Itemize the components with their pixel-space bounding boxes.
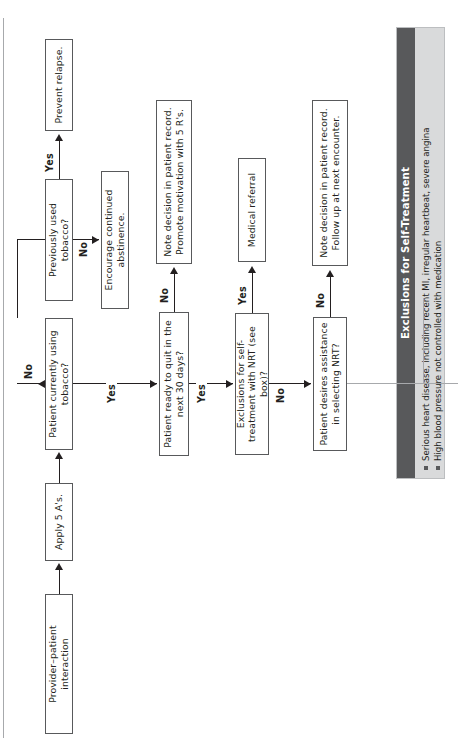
- edge-exclusions-yes: [252, 271, 253, 313]
- node-q-patient-currently-using-tobacco: Patient currently using tobacco?: [45, 318, 73, 450]
- arrowhead-previous-yes: [55, 134, 63, 141]
- edge-start-to-apply5a: [59, 568, 60, 594]
- page-continuation-rule: [423, 298, 424, 384]
- arrowhead-previous-no: [92, 236, 99, 244]
- arrowhead-exclusions-yes: [248, 266, 256, 273]
- edge-label-previous-no: No: [78, 241, 89, 258]
- exclusions-callout-title: Exclusions for Self-Treatment: [397, 28, 415, 478]
- edge-previous-yes-line: [59, 139, 60, 179]
- edge-label-desires-no: No: [315, 292, 326, 309]
- node-provider-patient-interaction: Provider–patient interaction: [45, 594, 73, 734]
- arrowhead-apply5a-to-q-current-use: [55, 452, 63, 459]
- node-medical-referral: Medical referral: [238, 158, 266, 262]
- node-q-ready-to-quit: Patient ready to quit in the next 30 day…: [159, 312, 189, 456]
- edge-label-current-use-yes: Yes: [106, 383, 117, 404]
- arrowhead-desires-no: [326, 270, 334, 277]
- node-note-decision-followup: Note decision in patient record. Follow …: [312, 100, 348, 266]
- edge-desires-no: [330, 275, 331, 317]
- flowchart-canvas: Exclusions for Self-Treatment Serious he…: [0, 0, 458, 756]
- node-encourage-continued-abstinence: Encourage continued abstinence.: [101, 171, 129, 309]
- arrowhead-current-use-yes: [150, 380, 157, 388]
- exclusion-item: High blood pressure not controlled with …: [433, 35, 444, 470]
- edge-desires-yes-continuation: [347, 383, 458, 384]
- edge-label-ready-yes: Yes: [196, 383, 207, 404]
- edge-label-ready-no: No: [159, 287, 170, 304]
- arrowhead-start-to-apply5a: [55, 563, 63, 570]
- edge-apply5a-to-q-current-use: [59, 457, 60, 483]
- edge-ready-no: [174, 272, 175, 312]
- arrowhead-ready-no: [170, 267, 178, 274]
- edge-label-previous-yes: Yes: [44, 152, 55, 173]
- arrowhead-current-use-no: [38, 380, 45, 388]
- node-q-previously-used-tobacco: Previously used tobacco?: [45, 179, 73, 301]
- edge-label-exclusions-yes: Yes: [237, 285, 248, 306]
- edge-q-current-to-q-previous: [17, 240, 18, 318]
- edge-label-current-use-no: No: [23, 363, 34, 380]
- edge-q-previous-stub: [17, 239, 45, 240]
- exclusions-callout: Exclusions for Self-Treatment Serious he…: [396, 27, 445, 479]
- node-prevent-relapse: Prevent relapse.: [45, 39, 73, 131]
- edge-label-exclusions-no: No: [275, 387, 286, 404]
- exclusion-item: Serious heart disease, including recent …: [421, 35, 432, 470]
- exclusions-callout-body: Serious heart disease, including recent …: [415, 28, 445, 478]
- node-note-decision-5rs: Note decision in patient record. Promote…: [156, 100, 192, 264]
- arrowhead-ready-yes: [226, 380, 233, 388]
- node-q-exclusions-for-self-treatment: Exclusions for self-treatment with NRT (…: [235, 313, 269, 455]
- arrowhead-exclusions-no: [304, 380, 311, 388]
- node-apply-5-as: Apply 5 A's.: [45, 483, 73, 561]
- node-q-desires-assistance-nrt: Patient desires assistance in selecting …: [313, 317, 347, 451]
